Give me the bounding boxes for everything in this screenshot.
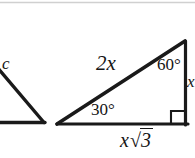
- left-triangle-hypotenuse: [0, 66, 44, 123]
- label-base-x-sqrt-3: x√3: [120, 130, 153, 150]
- label-angle-60: 60°: [157, 56, 181, 73]
- label-c: c: [2, 55, 10, 72]
- label-base-variable: x: [120, 129, 129, 151]
- sqrt-icon: √3: [129, 130, 153, 150]
- triangle-figure-svg: [0, 0, 195, 158]
- label-hypotenuse-2x: 2x: [96, 53, 116, 74]
- label-base-radicand: 3: [140, 128, 153, 151]
- right-angle-marker: [171, 111, 185, 124]
- label-leg-x: x: [187, 73, 195, 90]
- label-angle-30: 30°: [91, 101, 115, 118]
- right-triangle-hypotenuse: [57, 41, 185, 124]
- right-triangle: [57, 41, 188, 125]
- diagram-canvas: c 2x 60° x 30° x√3: [0, 0, 195, 158]
- partial-triangle-left: [0, 66, 45, 123]
